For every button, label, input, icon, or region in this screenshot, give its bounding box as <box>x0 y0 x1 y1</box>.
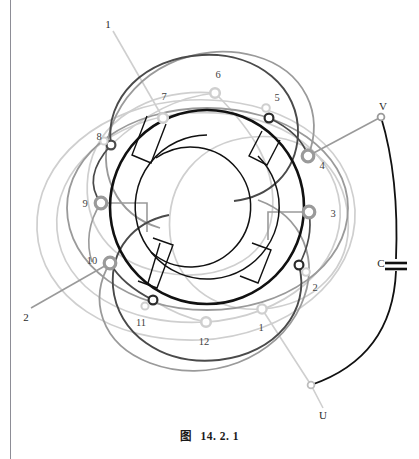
terminal-label-11: 11 <box>136 317 146 328</box>
terminal-node-11[interactable] <box>149 296 158 305</box>
terminal-label-8: 8 <box>96 131 101 142</box>
lead-label-1: 1 <box>105 18 111 30</box>
figure-caption: 图14. 2. 1 <box>0 427 419 443</box>
light-lead-7-to-label1 <box>113 31 163 118</box>
terminal-node-4[interactable] <box>302 150 314 162</box>
terminal-node-3[interactable] <box>303 206 315 218</box>
terminal-label-9: 9 <box>82 198 87 209</box>
terminal-label-6: 6 <box>215 69 220 80</box>
terminal-node-12[interactable] <box>201 317 211 327</box>
terminal-node-2[interactable] <box>295 261 304 270</box>
terminal-node-10[interactable] <box>104 257 116 269</box>
figure-root: 1 2 3 4 5 6 7 8 9 10 11 12 U V 1 2 C 图14… <box>0 0 419 459</box>
caption-prefix: 图 <box>180 430 192 442</box>
bracket-lower-left-inner <box>148 243 160 283</box>
terminal-node-7[interactable] <box>158 113 168 123</box>
terminal-node-6[interactable] <box>210 88 220 98</box>
cap-wire-upper <box>381 117 396 259</box>
terminal-label-10: 10 <box>87 255 98 266</box>
terminal-node-9[interactable] <box>95 197 107 209</box>
terminal-node-2b <box>302 268 310 276</box>
capacitor-branch <box>311 117 407 385</box>
lead-label-U: U <box>319 409 327 421</box>
terminal-node-5[interactable] <box>265 114 274 123</box>
terminal-label-3: 3 <box>330 208 335 219</box>
lead-label-V: V <box>379 100 387 112</box>
terminal-label-12: 12 <box>199 336 210 347</box>
caption-number: 14. 2. 1 <box>201 430 240 442</box>
light-lead-1-to-U <box>262 309 323 408</box>
terminal-label-5: 5 <box>274 92 279 103</box>
terminal-label-1: 1 <box>258 322 263 333</box>
bracket-lower-right <box>240 243 271 283</box>
core-outer-ring <box>110 110 304 304</box>
stator-winding-diagram: 1 2 3 4 5 6 7 8 9 10 11 12 U V 1 2 C <box>0 0 419 459</box>
terminal-node-5b <box>262 104 270 112</box>
terminal-label-2: 2 <box>312 282 317 293</box>
core-inner-arc-lower <box>151 147 251 267</box>
terminal-label-4: 4 <box>319 160 325 171</box>
lead-node-V[interactable] <box>378 114 385 121</box>
coil-end-brackets <box>132 116 280 288</box>
mid-lead-4-to-V <box>308 117 381 156</box>
capacitor-label: C <box>377 257 384 269</box>
lead-label-2: 2 <box>23 311 29 323</box>
lead-node-U[interactable] <box>308 382 315 389</box>
stator-core <box>110 110 304 304</box>
terminal-node-1[interactable] <box>257 304 266 313</box>
phase-group-light <box>37 31 355 408</box>
light-loop-upper <box>87 92 273 274</box>
terminal-label-7: 7 <box>161 91 166 102</box>
terminal-node-11b <box>141 302 148 309</box>
